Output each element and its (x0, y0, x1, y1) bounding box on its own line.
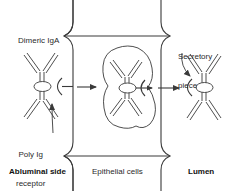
upper-neighbor-cell (64, 0, 73, 36)
iga-transcytosis-diagram: Dimeric IgA Secretory piece Poly Ig rece… (0, 0, 233, 191)
label-poly-ig-receptor-line2: receptor (16, 179, 45, 189)
label-poly-ig-receptor: Poly Ig receptor (16, 131, 45, 191)
right-membrane (161, 0, 170, 191)
poly-ig-receptor-left (58, 78, 63, 95)
label-secretory-piece-line2: piece (178, 81, 212, 91)
label-poly-ig-receptor-line1: Poly Ig (16, 150, 45, 160)
label-abluminal-side: Abluminal side (9, 167, 66, 177)
iga-mid-j-chain (119, 83, 136, 93)
iga-left-j-chain (34, 82, 51, 92)
label-lumen: Lumen (188, 167, 214, 177)
label-secretory-piece-line1: Secretory (178, 52, 212, 62)
label-secretory-piece: Secretory piece (178, 33, 212, 109)
label-epithelial-cells: Epithelial cells (92, 167, 143, 177)
epithelial-cell-boundaries (64, 0, 170, 191)
dimeric-iga-left (24, 53, 73, 119)
label-dimeric-iga: Dimeric IgA (18, 36, 59, 46)
